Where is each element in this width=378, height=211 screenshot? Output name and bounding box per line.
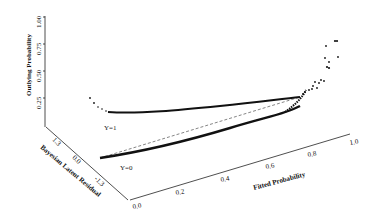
x-axis-tick-labels: 0.0 0.2 0.4 0.6 0.8 1.0 [132, 137, 359, 210]
x-tick-0.6: 0.6 [265, 161, 275, 170]
x-tick-0.4: 0.4 [220, 174, 230, 183]
x-tick-0.2: 0.2 [175, 187, 185, 196]
y-axis-title: Bayesian Latent Residual [39, 143, 103, 198]
x-axis-title: Fitted Probability [252, 170, 306, 192]
label-y1: Y=1 [104, 124, 117, 132]
z-tick-1.00: 1.00 [35, 15, 43, 28]
x-tick-0.8: 0.8 [307, 149, 317, 158]
y-tick-1.3: 1.3 [51, 136, 63, 148]
label-y0: Y=0 [120, 164, 133, 172]
z-axis-title: Outlying Probability [25, 34, 33, 96]
x-axis-line [130, 134, 350, 200]
reference-dashed-line [100, 97, 300, 158]
x-tick-1.0: 1.0 [349, 137, 359, 146]
z-tick-0.50: 0.50 [35, 69, 43, 82]
y-tick-0.0: 0.0 [71, 154, 83, 166]
x-tick-0.0: 0.0 [132, 201, 142, 210]
3d-scatter-chart: 1.00 0.75 0.50 0.25 Outlying Probability… [0, 0, 378, 211]
z-axis-tick-labels: 1.00 0.75 0.50 0.25 [35, 15, 43, 109]
z-tick-0.75: 0.75 [35, 42, 43, 55]
outlier-points [302, 40, 339, 95]
z-tick-0.25: 0.25 [35, 96, 43, 109]
series-y1 [89, 97, 300, 113]
